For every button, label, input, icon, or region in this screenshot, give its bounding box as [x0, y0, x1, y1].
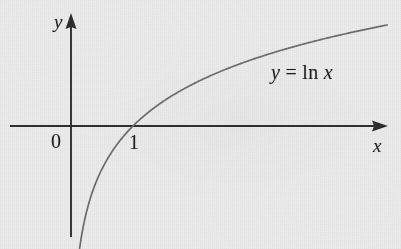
curve-equation-label: y = ln x	[271, 62, 333, 82]
x-tick-label-one: 1	[129, 132, 139, 152]
graph-canvas	[0, 0, 401, 249]
y-axis-label: y	[54, 12, 62, 31]
x-axis-arrowhead	[372, 121, 388, 132]
log-curve	[80, 25, 388, 248]
origin-tick-label: 0	[51, 131, 61, 151]
y-axis-arrowhead	[66, 13, 77, 29]
equation-y-variable: y	[271, 61, 280, 83]
x-axis-label: x	[373, 136, 381, 155]
math-graph-figure: y x 0 1 y = ln x	[0, 0, 401, 249]
equation-x-variable: x	[324, 61, 333, 83]
